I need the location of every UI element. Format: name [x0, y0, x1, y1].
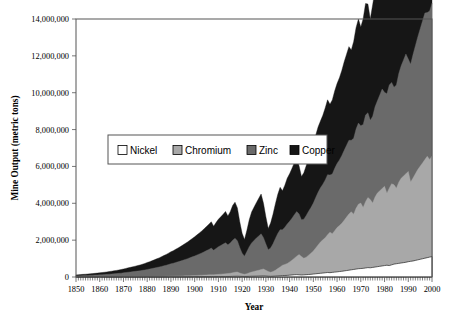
x-tick-label: 1950: [305, 285, 322, 294]
x-tick-label: 1900: [186, 285, 203, 294]
y-tick-label: 8,000,000: [36, 126, 70, 135]
chart-container: 02,000,0004,000,0006,000,0008,000,00010,…: [0, 0, 451, 317]
x-tick-label: 1920: [234, 285, 251, 294]
x-tick-label: 1940: [281, 285, 298, 294]
legend-label-zinc: Zinc: [259, 145, 278, 156]
legend-label-chromium: Chromium: [185, 145, 231, 156]
y-tick-label: 10,000,000: [31, 89, 69, 98]
x-tick-label: 1870: [115, 285, 132, 294]
mine-output-area-chart: 02,000,0004,000,0006,000,0008,000,00010,…: [0, 0, 451, 317]
legend-swatch-chromium: [173, 146, 182, 155]
legend-label-copper: Copper: [302, 145, 335, 156]
x-axis: 1850186018701880189019001910192019301940…: [68, 277, 441, 294]
legend-label-nickel: Nickel: [130, 145, 157, 156]
x-tick-label: 1890: [163, 285, 180, 294]
x-tick-label: 1850: [68, 285, 85, 294]
y-tick-label: 0: [65, 273, 69, 282]
y-tick-label: 12,000,000: [31, 52, 69, 61]
y-tick-label: 14,000,000: [31, 15, 69, 24]
x-tick-label: 1970: [352, 285, 369, 294]
y-axis-title: Mine Output (metric tons): [10, 95, 21, 200]
x-tick-label: 1990: [400, 285, 417, 294]
y-tick-label: 6,000,000: [36, 162, 70, 171]
x-tick-label: 1860: [91, 285, 108, 294]
x-tick-label: 2000: [424, 285, 441, 294]
x-tick-label: 1980: [376, 285, 393, 294]
x-tick-label: 1960: [329, 285, 346, 294]
x-tick-label: 1880: [139, 285, 156, 294]
chart-legend: NickelChromiumZincCopper: [108, 135, 335, 164]
x-tick-label: 1930: [257, 285, 274, 294]
legend-swatch-copper: [290, 146, 299, 155]
legend-swatch-zinc: [247, 146, 256, 155]
x-tick-label: 1910: [210, 285, 227, 294]
x-axis-title: Year: [245, 302, 264, 312]
y-tick-label: 4,000,000: [36, 199, 70, 208]
legend-items: NickelChromiumZincCopper: [118, 145, 335, 156]
y-axis: 02,000,0004,000,0006,000,0008,000,00010,…: [31, 15, 76, 282]
y-tick-label: 2,000,000: [36, 236, 70, 245]
legend-swatch-nickel: [118, 146, 127, 155]
